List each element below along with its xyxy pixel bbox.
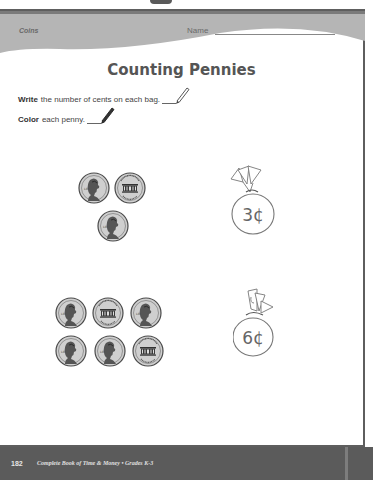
- penny-heads-icon[interactable]: [94, 335, 126, 367]
- penny-tails-icon[interactable]: [92, 297, 124, 329]
- cropped-previous-title-glyph: [150, 0, 172, 4]
- instruction-color: Color each penny.: [18, 106, 115, 124]
- name-label: Name: [187, 26, 208, 35]
- money-bag-icon: [233, 287, 293, 367]
- instruction-verb: Color: [18, 115, 39, 124]
- instruction-write: Write the number of cents on each bag.: [18, 86, 190, 104]
- pencil-icon: [99, 106, 115, 124]
- money-bag-icon: [225, 162, 285, 242]
- subject-label: Coins: [19, 27, 38, 34]
- penny-tails-icon[interactable]: [114, 172, 146, 204]
- penny-heads-icon[interactable]: [55, 297, 87, 329]
- page-number: 182: [11, 460, 23, 467]
- penny-heads-icon[interactable]: [130, 297, 162, 329]
- page-footer: 182 Complete Book of Time & Money • Grad…: [0, 447, 373, 480]
- footer-stripe: [345, 447, 348, 480]
- penny-tails-icon[interactable]: [132, 335, 164, 367]
- worksheet-page: Coins Name Counting Pennies Write the nu…: [0, 9, 365, 447]
- bag-value[interactable]: 3¢: [233, 205, 273, 225]
- page-title: Counting Pennies: [0, 61, 363, 79]
- header-band: Coins Name: [0, 11, 363, 57]
- pencil-icon: [174, 86, 190, 104]
- penny-heads-icon[interactable]: [97, 210, 129, 242]
- name-field-line[interactable]: [215, 34, 335, 35]
- instruction-text: each penny.: [42, 115, 85, 124]
- instruction-text: the number of cents on each bag.: [41, 95, 160, 104]
- penny-heads-icon[interactable]: [78, 172, 110, 204]
- bag-value[interactable]: 6¢: [233, 328, 273, 348]
- book-title: Complete Book of Time & Money • Grades K…: [37, 460, 153, 466]
- penny-heads-icon[interactable]: [55, 335, 87, 367]
- instruction-verb: Write: [18, 95, 38, 104]
